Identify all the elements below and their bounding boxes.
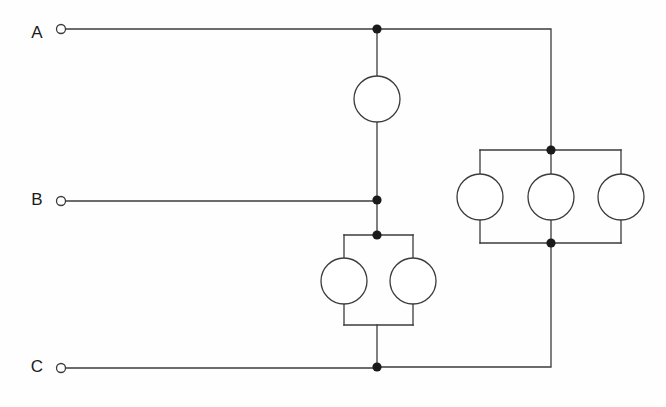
junction-node-triple-top [546,145,555,154]
junction-node-pair-top [372,230,381,239]
junction-node-b-center [372,195,381,204]
circuit-element-triple-right[interactable] [598,174,644,220]
circuit-element-pair-right[interactable] [390,258,436,304]
terminal-ring-c[interactable] [57,364,66,373]
element-layer [321,76,644,304]
terminal-layer: A B C [31,23,66,376]
wire-a-to-right-rail [377,29,551,150]
junction-node-a-center [372,24,381,33]
circuit-element-top-single[interactable] [354,76,400,122]
circuit-schematic: A B C [0,0,666,407]
junction-node-triple-bottom [546,238,555,247]
circuit-element-pair-left[interactable] [321,258,367,304]
terminal-label-c: C [31,357,43,376]
terminal-label-a: A [31,23,43,42]
circuit-element-triple-left[interactable] [457,174,503,220]
terminal-ring-a[interactable] [57,25,66,34]
terminal-ring-b[interactable] [57,197,66,206]
junction-node-c-center [372,362,381,371]
circuit-diagram-canvas: A B C [0,0,666,407]
circuit-element-triple-middle[interactable] [528,174,574,220]
terminal-label-b: B [31,190,42,209]
